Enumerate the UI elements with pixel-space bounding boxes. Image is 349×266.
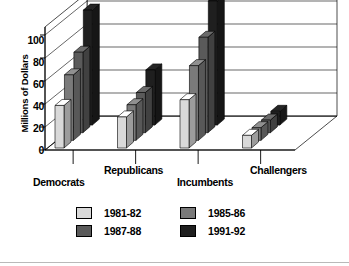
legend-swatch-1987-88 [76, 225, 92, 237]
bar-chart-3d: Millions of Dollars 100 80 60 40 20 0 De… [0, 0, 349, 266]
legend-swatch-1991-92 [180, 225, 196, 237]
legend-label-1985-86: 1985-86 [208, 206, 245, 220]
bar-republicans-1981-82 [118, 111, 134, 148]
legend-label-1987-88: 1987-88 [104, 224, 141, 238]
legend-swatch-1981-82 [76, 207, 92, 219]
bar-incumbents-1981-82 [180, 94, 196, 148]
legend-label-1991-92: 1991-92 [208, 224, 245, 238]
page-bottom-rule [0, 262, 349, 263]
category-label-republicans: Republicans [104, 164, 163, 176]
category-label-democrats: Democrats [33, 176, 85, 188]
category-label-incumbents: Incumbents [177, 176, 233, 188]
legend-swatch-1985-86 [180, 207, 196, 219]
legend-label-1981-82: 1981-82 [104, 206, 141, 220]
bar-democrats-1981-82 [55, 99, 71, 148]
category-label-challengers: Challengers [250, 164, 307, 176]
chart-legend: 1981-82 1985-86 1987-88 1991-92 [62, 206, 277, 250]
